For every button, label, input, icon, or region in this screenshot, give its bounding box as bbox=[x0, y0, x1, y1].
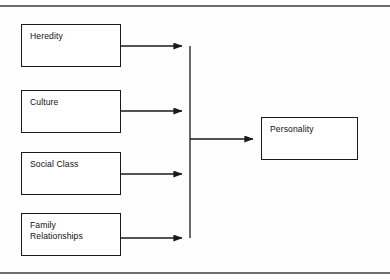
node-heredity: Heredity bbox=[21, 24, 121, 67]
node-personality-label: Personality bbox=[270, 124, 357, 135]
node-social-class-label: Social Class bbox=[30, 159, 120, 170]
node-family-relationships: Family Relationships bbox=[21, 213, 121, 256]
node-culture-label: Culture bbox=[30, 97, 120, 108]
node-social-class: Social Class bbox=[21, 152, 121, 195]
node-heredity-label: Heredity bbox=[30, 31, 120, 42]
node-personality: Personality bbox=[261, 117, 358, 160]
node-family-relationships-label: Family Relationships bbox=[30, 220, 120, 242]
node-culture: Culture bbox=[21, 90, 121, 133]
figure-root: Heredity Culture Social Class Family Rel… bbox=[0, 0, 390, 280]
